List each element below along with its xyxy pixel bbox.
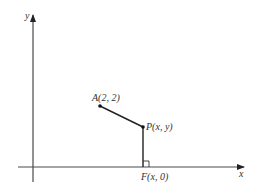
right-angle-marker [143,161,149,167]
point-a [98,104,102,108]
point-a-label: A(2, 2) [91,92,120,104]
segment-ap [100,106,143,127]
coordinate-diagram: y x A(2, 2) P(x, y) F(x, 0) [0,0,257,189]
point-f-label: F(x, 0) [140,171,169,183]
point-p [141,125,145,129]
point-p-label: P(x, y) [145,121,173,133]
x-axis-label: x [238,168,244,179]
y-axis-label: y [24,10,30,21]
